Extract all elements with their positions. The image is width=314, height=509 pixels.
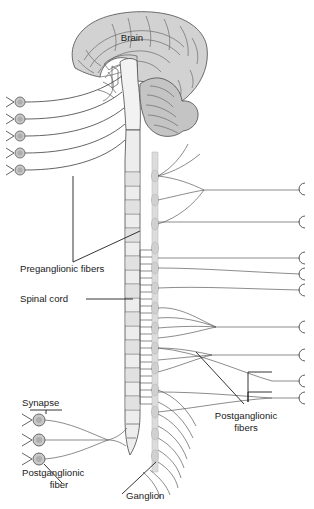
label-spinal-cord: Spinal cord (20, 293, 68, 304)
bottom-left-neuron-group (22, 414, 127, 465)
label-postganglionic-fibers-right-line2: fibers (234, 422, 258, 433)
brainstem (120, 58, 140, 130)
label-postganglionic-fiber-left-line1: Postganglionic (22, 467, 85, 478)
leader-lines (30, 176, 272, 494)
diagram-canvas: Brain Preganglionic fibers Spinal cord S… (0, 0, 314, 509)
cranial-preganglionic-fibers (25, 76, 125, 170)
left-ganglion-nuclei (17, 99, 22, 172)
anatomy-figure: Brain Preganglionic fibers Spinal cord S… (0, 0, 314, 509)
label-brain: Brain (121, 32, 143, 43)
label-synapse: Synapse (22, 397, 59, 408)
label-preganglionic-fibers: Preganglionic fibers (20, 263, 104, 274)
sympathetic-chain-group (151, 152, 158, 472)
postganglionic-fiber-bundles (158, 222, 300, 412)
thoracolumbar-outflow-fibers (140, 250, 152, 404)
right-terminal-endings (299, 183, 305, 404)
spinal-segment-shading (126, 173, 140, 410)
postganglionic-fibers-right-diagonal (196, 352, 244, 404)
bottom-left-dendrites (22, 414, 32, 465)
left-dendrites (6, 97, 14, 175)
label-postganglionic-fibers-right-line1: Postganglionic (215, 410, 278, 421)
lumbosacral-curved-fibers (143, 390, 196, 498)
bottom-left-axons (45, 420, 127, 459)
left-neuron-group (6, 76, 125, 175)
spinal-cord-group (125, 130, 140, 455)
brain-group (72, 12, 207, 137)
cervical-fiber-fan (158, 144, 300, 224)
label-ganglion: Ganglion (126, 490, 164, 501)
label-postganglionic-fiber-left-line2: fiber (50, 479, 69, 490)
